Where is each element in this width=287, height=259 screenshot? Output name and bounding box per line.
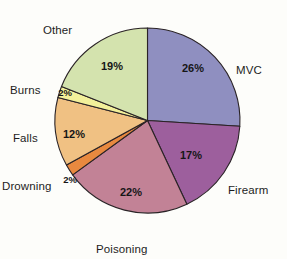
pie-category-label-other: Other	[43, 24, 72, 36]
pie-category-label-poisoning: Poisoning	[96, 243, 147, 255]
pie-category-label-drowning: Drowning	[2, 180, 51, 192]
pie-value-label-mvc: 26%	[182, 62, 204, 74]
pie-value-label-burns: 2%	[58, 87, 72, 98]
pie-value-label-poisoning: 22%	[120, 186, 142, 198]
pie-category-label-burns: Burns	[10, 84, 41, 96]
pie-slice-group	[55, 28, 240, 213]
pie-value-label-drowning: 2%	[63, 174, 77, 185]
pie-category-label-firearm: Firearm	[228, 184, 268, 196]
pie-category-label-falls: Falls	[13, 132, 38, 144]
pie-value-label-falls: 12%	[63, 128, 85, 140]
pie-category-label-mvc: MVC	[236, 64, 262, 76]
pie-chart: 26%17%22%2%12%2%19% MVCFirearmPoisoningD…	[0, 0, 287, 259]
pie-slice-mvc[interactable]	[148, 28, 241, 126]
pie-chart-canvas: 26%17%22%2%12%2%19%	[0, 0, 287, 259]
pie-value-label-firearm: 17%	[180, 149, 202, 161]
pie-value-label-other: 19%	[101, 60, 123, 72]
